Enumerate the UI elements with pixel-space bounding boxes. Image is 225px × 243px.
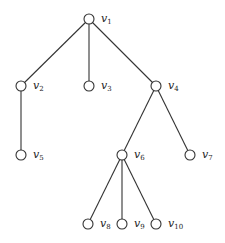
node-v3: v3: [84, 79, 112, 93]
node-circle: [84, 14, 94, 24]
node-label-subscript: 4: [174, 85, 179, 93]
edge-v1-v4: [89, 19, 156, 86]
node-label: v2: [33, 79, 44, 93]
edge-v1-v2: [21, 19, 89, 86]
tree-diagram: v1v2v3v4v5v6v7v8v9v10: [0, 0, 225, 243]
node-label-subscript: 1: [107, 18, 111, 26]
node-label-subscript: 5: [39, 154, 43, 162]
node-v7: v7: [185, 148, 213, 162]
node-label: v9: [134, 217, 145, 231]
node-label-subscript: 10: [174, 223, 183, 231]
node-label-subscript: 2: [39, 85, 43, 93]
node-circle: [185, 150, 195, 160]
node-label: v1: [101, 12, 112, 26]
node-circle: [117, 150, 127, 160]
node-label: v5: [33, 148, 44, 162]
node-circle: [16, 81, 26, 91]
node-v4: v4: [151, 79, 179, 93]
node-v10: v10: [151, 217, 183, 231]
edge-v6-v10: [122, 155, 156, 224]
node-label-subscript: 3: [107, 85, 111, 93]
node-v5: v5: [16, 148, 44, 162]
node-label: v10: [168, 217, 183, 231]
node-label-subscript: 9: [140, 223, 144, 231]
node-label: v3: [101, 79, 112, 93]
node-v8: v8: [83, 217, 111, 231]
node-label: v8: [100, 217, 111, 231]
edge-v4-v7: [156, 86, 190, 155]
node-v6: v6: [117, 148, 145, 162]
node-circle: [83, 219, 93, 229]
node-label: v6: [134, 148, 145, 162]
edge-v6-v8: [88, 155, 122, 224]
node-v9: v9: [117, 217, 145, 231]
node-circle: [117, 219, 127, 229]
node-circle: [16, 150, 26, 160]
edges-layer: [21, 19, 190, 224]
edge-v4-v6: [122, 86, 156, 155]
node-label-subscript: 7: [208, 154, 212, 162]
node-circle: [84, 81, 94, 91]
node-label: v4: [168, 79, 179, 93]
node-v2: v2: [16, 79, 44, 93]
node-circle: [151, 219, 161, 229]
node-label-subscript: 6: [140, 154, 145, 162]
node-label: v7: [202, 148, 213, 162]
node-circle: [151, 81, 161, 91]
node-label-subscript: 8: [106, 223, 110, 231]
node-v1: v1: [84, 12, 112, 26]
